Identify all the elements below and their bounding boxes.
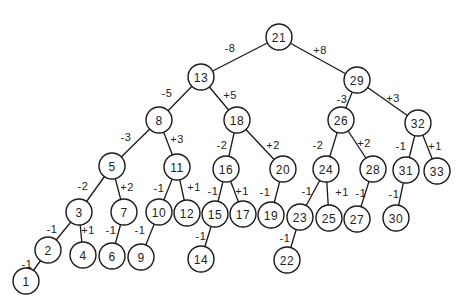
tree-node-21: 21 (266, 24, 292, 50)
node-label: 13 (194, 71, 208, 85)
tree-node-19: 19 (258, 202, 284, 228)
node-label: 1 (22, 275, 29, 289)
tree-node-14: 14 (188, 246, 214, 272)
edge-label: -5 (162, 87, 173, 99)
tree-node-24: 24 (313, 156, 339, 182)
node-label: 26 (334, 114, 348, 128)
tree-node-9: 9 (128, 244, 154, 270)
node-label: 20 (276, 163, 290, 177)
edge-label: -3 (337, 93, 348, 105)
edge-label: -1 (135, 224, 146, 236)
tree-node-33: 33 (424, 158, 450, 184)
node-label: 25 (322, 212, 336, 226)
edge-label: -2 (217, 139, 228, 151)
tree-node-13: 13 (188, 64, 214, 90)
node-label: 7 (120, 206, 127, 220)
edge-label: +1 (187, 181, 201, 193)
tree-node-10: 10 (146, 199, 172, 225)
tree-node-15: 15 (202, 201, 228, 227)
node-label: 14 (194, 253, 208, 267)
edge-label: +3 (170, 133, 184, 145)
edge-label: -1 (302, 185, 313, 197)
tree-node-31: 31 (393, 157, 419, 183)
tree-node-6: 6 (99, 243, 125, 269)
edge-label: +5 (223, 89, 237, 101)
edge-label: -3 (121, 131, 132, 143)
node-label: 32 (411, 117, 425, 131)
edge-label: +1 (428, 140, 442, 152)
edge-label: -1 (260, 186, 271, 198)
tree-node-7: 7 (111, 199, 137, 225)
edge-labels-layer: -8+8-5+5-3+3-3+3-2+2-2+2-1+1-2+2-1+1-1+1… (22, 42, 442, 270)
node-label: 5 (108, 160, 115, 174)
edge-label: +1 (335, 186, 349, 198)
node-label: 4 (79, 249, 86, 263)
node-label: 17 (236, 208, 250, 222)
tree-node-29: 29 (344, 67, 370, 93)
tree-node-3: 3 (66, 199, 92, 225)
tree-node-22: 22 (274, 247, 300, 273)
tree-node-27: 27 (344, 206, 370, 232)
tree-node-11: 11 (164, 154, 190, 180)
edge-label: -8 (225, 42, 236, 54)
tree-node-25: 25 (316, 205, 342, 231)
node-label: 8 (155, 114, 162, 128)
node-label: 6 (108, 250, 115, 264)
node-label: 2 (44, 244, 51, 258)
edge-label: -1 (280, 232, 291, 244)
node-label: 3 (75, 206, 82, 220)
tree-node-16: 16 (213, 156, 239, 182)
tree-node-12: 12 (174, 200, 200, 226)
node-label: 31 (399, 164, 413, 178)
node-label: 24 (319, 163, 333, 177)
node-label: 15 (208, 208, 222, 222)
node-label: 10 (152, 206, 166, 220)
node-label: 22 (280, 254, 294, 268)
node-label: 21 (272, 31, 286, 45)
edge-label: +1 (235, 185, 249, 197)
nodes-layer: 2113298182632511162024283133371012151719… (13, 24, 450, 294)
edge-label: -2 (78, 180, 89, 192)
edge-label: -2 (313, 139, 324, 151)
tree-node-5: 5 (99, 153, 125, 179)
edge-label: +2 (266, 139, 280, 151)
node-label: 29 (350, 74, 364, 88)
tree-node-23: 23 (287, 204, 313, 230)
node-label: 28 (366, 163, 380, 177)
node-label: 11 (170, 161, 183, 175)
node-label: 12 (180, 207, 194, 221)
tree-node-32: 32 (405, 110, 431, 136)
node-label: 30 (389, 212, 403, 226)
tree-node-1: 1 (13, 268, 39, 294)
edge-label: -1 (47, 223, 58, 235)
node-label: 16 (219, 163, 233, 177)
edge-label: -1 (396, 140, 407, 152)
tree-node-20: 20 (270, 156, 296, 182)
edge-label: -1 (154, 182, 165, 194)
node-label: 9 (137, 251, 144, 265)
tree-node-8: 8 (146, 107, 172, 133)
tree-node-17: 17 (230, 201, 256, 227)
tree-node-28: 28 (360, 156, 386, 182)
tree-node-18: 18 (224, 107, 250, 133)
node-label: 27 (350, 213, 364, 227)
node-label: 18 (230, 114, 244, 128)
fibonacci-tree-diagram: -8+8-5+5-3+3-3+3-2+2-2+2-1+1-2+2-1+1-1+1… (0, 0, 460, 300)
edge-label: -1 (389, 188, 400, 200)
edge-label: +2 (357, 137, 371, 149)
node-label: 23 (293, 211, 307, 225)
edge-label: +3 (386, 92, 400, 104)
tree-node-26: 26 (328, 107, 354, 133)
tree-node-30: 30 (383, 205, 409, 231)
edge-label: +8 (313, 44, 327, 56)
edge-label: -1 (106, 224, 117, 236)
tree-node-4: 4 (70, 242, 96, 268)
edge-label: -1 (196, 230, 207, 242)
node-label: 33 (430, 165, 444, 179)
edge-label: -1 (356, 187, 367, 199)
edge-label: -1 (208, 185, 219, 197)
edge-label: +1 (81, 224, 95, 236)
node-label: 19 (264, 209, 278, 223)
edge-label: +2 (120, 181, 134, 193)
tree-node-2: 2 (35, 237, 61, 263)
